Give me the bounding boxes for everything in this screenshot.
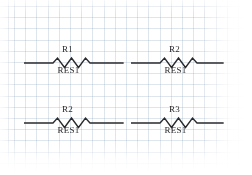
component-designator: R1 (24, 44, 128, 54)
component-resistor-r3[interactable]: R3 RES1 (131, 104, 235, 138)
component-resistor-r2-top[interactable]: R2 RES1 (131, 44, 235, 78)
component-value: RES1 (24, 125, 128, 135)
component-value: RES1 (131, 125, 235, 135)
component-designator: R2 (24, 104, 128, 114)
graph-paper-grid (0, 0, 252, 175)
component-designator: R2 (131, 44, 235, 54)
component-value: RES1 (24, 65, 128, 75)
component-value: RES1 (131, 65, 235, 75)
component-resistor-r2-bottom[interactable]: R2 RES1 (24, 104, 128, 138)
component-resistor-r1[interactable]: R1 RES1 (24, 44, 128, 78)
component-designator: R3 (131, 104, 235, 114)
schematic-canvas: R1 RES1 R2 RES1 R2 RES1 R3 RES1 (0, 0, 252, 175)
